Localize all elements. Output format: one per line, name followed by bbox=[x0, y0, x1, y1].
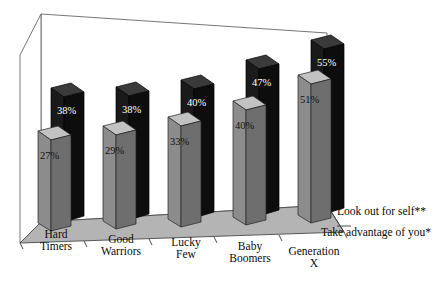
bar-take-advantage-1: 29% bbox=[103, 121, 136, 229]
bar-front-face bbox=[103, 126, 116, 229]
cat-tick-3 bbox=[214, 237, 217, 243]
bar-value-label: 29% bbox=[105, 145, 125, 156]
cat-tick-5 bbox=[344, 232, 347, 238]
bar-value-label: 38% bbox=[122, 104, 142, 115]
bar-take-advantage-0: 27% bbox=[38, 126, 71, 231]
bar-take-advantage-3: 40% bbox=[233, 96, 266, 225]
cat-tick-1 bbox=[84, 241, 87, 247]
chart-container: 38% 27% 38% 29% bbox=[0, 0, 442, 285]
bar-value-label: 40% bbox=[187, 97, 207, 108]
cat-tick-4 bbox=[279, 235, 282, 241]
bar-take-advantage-2: 33% bbox=[168, 112, 201, 227]
bar-value-label: 51% bbox=[300, 94, 320, 105]
bar-value-label: 47% bbox=[252, 77, 272, 88]
bar-value-label: 40% bbox=[235, 120, 255, 131]
bar-value-label: 55% bbox=[317, 57, 337, 68]
bar-value-label: 38% bbox=[57, 105, 77, 116]
bar-front-face bbox=[168, 117, 181, 227]
bar-take-advantage-4: 51% bbox=[298, 70, 331, 223]
cat-tick-0 bbox=[20, 243, 23, 249]
bar-chart-3d: 38% 27% 38% 29% bbox=[0, 0, 442, 285]
bar-front-face bbox=[38, 131, 51, 231]
bar-value-label: 33% bbox=[170, 136, 190, 147]
cat-tick-2 bbox=[149, 239, 152, 245]
bar-value-label: 27% bbox=[40, 150, 60, 161]
